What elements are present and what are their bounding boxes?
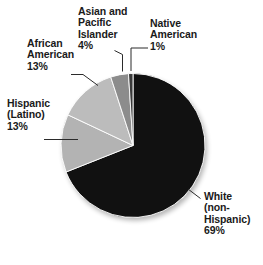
slice-label-hispanic-latino: Hispanic (Latino) 13%	[7, 98, 50, 132]
slice-value-hispanic-latino: 13%	[7, 121, 50, 132]
pie-chart: Asian and Pacific Islander 4% Native Ame…	[0, 0, 263, 265]
leader-line-asian-pacific	[115, 51, 123, 72]
slice-value-native-american: 1%	[150, 41, 197, 52]
leader-line-native-american	[131, 48, 148, 71]
slice-label-white-non-hispanic: White (non- Hispanic) 69%	[204, 191, 250, 237]
leader-line-african-american	[71, 75, 98, 86]
slice-value-white-non-hispanic: 69%	[204, 225, 250, 236]
pie-slice-group	[61, 74, 205, 218]
slice-label-native-american: Native American 1%	[150, 18, 197, 52]
slice-value-asian-and-pacific-islander: 4%	[78, 40, 127, 51]
leader-line-white	[188, 189, 201, 199]
slice-label-asian-and-pacific-islander: Asian and Pacific Islander 4%	[78, 6, 127, 52]
slice-label-african-american: African American 13%	[27, 38, 74, 72]
slice-value-african-american: 13%	[27, 61, 74, 72]
